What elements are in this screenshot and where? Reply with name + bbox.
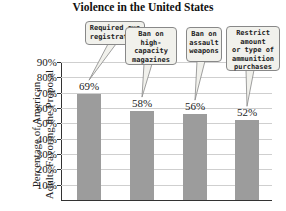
callout-label: Restrict amount or type of ammunition pu… — [226, 26, 280, 71]
callout-label: Ban on assault weapons — [186, 27, 222, 62]
callout-label: Ban on high-capacity magazines — [125, 27, 177, 65]
